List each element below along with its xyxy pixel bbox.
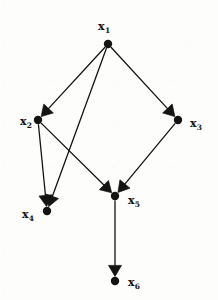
- node-label-subscript: 3: [197, 123, 202, 132]
- node-label-x4: x4: [22, 209, 34, 220]
- graph-canvas: [0, 0, 218, 300]
- node-label-x2: x2: [20, 116, 32, 127]
- node-label-base: x: [22, 208, 29, 221]
- graph-edge: [38, 125, 45, 198]
- graph-node-x5[interactable]: [111, 192, 119, 200]
- node-label-x6: x6: [128, 277, 140, 288]
- edge-arrowhead: [109, 265, 122, 276]
- node-label-x1: x1: [98, 21, 110, 32]
- graph-node-x3[interactable]: [174, 116, 182, 124]
- node-label-subscript: 1: [105, 26, 110, 35]
- graph-edge: [41, 123, 105, 186]
- graph-edge: [51, 49, 106, 199]
- graph-node-x4[interactable]: [43, 207, 51, 215]
- edge-layer: [38, 48, 174, 277]
- node-layer: [34, 40, 182, 285]
- node-label-subscript: 4: [29, 214, 34, 223]
- node-label-x5: x5: [128, 195, 140, 206]
- node-label-base: x: [20, 115, 27, 128]
- node-label-x3: x3: [190, 118, 202, 129]
- graph-node-x1[interactable]: [104, 40, 112, 48]
- node-label-base: x: [98, 20, 105, 33]
- node-label-base: x: [128, 194, 135, 207]
- graph-node-x2[interactable]: [34, 116, 42, 124]
- edge-arrowhead: [118, 180, 130, 193]
- node-label-base: x: [190, 117, 197, 130]
- graph-node-x6[interactable]: [111, 277, 119, 285]
- graph-figure: x1x2x3x4x5x6: [0, 0, 218, 300]
- graph-edge: [123, 124, 175, 186]
- node-label-subscript: 5: [135, 200, 140, 209]
- node-label-base: x: [128, 276, 135, 289]
- graph-edge: [111, 48, 169, 111]
- node-label-subscript: 6: [135, 282, 140, 291]
- node-label-subscript: 2: [27, 121, 32, 130]
- graph-edge: [47, 48, 105, 111]
